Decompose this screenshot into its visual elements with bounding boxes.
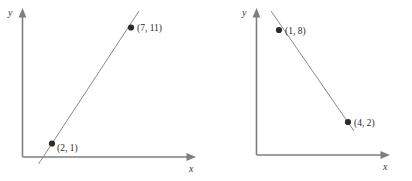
y-axis-left bbox=[19, 8, 27, 157]
y-axis-label: y bbox=[7, 7, 13, 18]
x-axis-label: x bbox=[188, 163, 194, 174]
data-point-dot bbox=[276, 27, 282, 33]
x-axis-arrowhead-icon bbox=[381, 151, 391, 159]
data-point-dot bbox=[49, 140, 55, 146]
y-axis-arrowhead-icon bbox=[19, 8, 27, 18]
y-axis-right bbox=[253, 8, 261, 155]
point-label: (2, 1) bbox=[57, 143, 78, 154]
data-point-dot bbox=[345, 119, 351, 125]
x-axis-label: x bbox=[382, 161, 388, 172]
x-axis-right bbox=[257, 151, 391, 159]
data-point-dot bbox=[128, 24, 134, 30]
point-label: (4, 2) bbox=[354, 118, 375, 129]
y-axis-arrowhead-icon bbox=[253, 8, 261, 18]
x-axis-arrowhead-icon bbox=[187, 153, 197, 161]
plotted-line-right bbox=[271, 11, 354, 131]
x-axis-left bbox=[23, 153, 197, 161]
point-label: (1, 8) bbox=[285, 26, 306, 37]
panel-left-positive-slope: (2, 1) (7, 11) y x bbox=[0, 0, 206, 181]
point-label: (7, 11) bbox=[137, 23, 162, 34]
y-axis-label: y bbox=[241, 7, 247, 18]
panel-right-negative-slope: (1, 8) (4, 2) y x bbox=[206, 0, 412, 181]
two-panel-coordinate-diagram: (2, 1) (7, 11) y x (1, bbox=[0, 0, 412, 181]
